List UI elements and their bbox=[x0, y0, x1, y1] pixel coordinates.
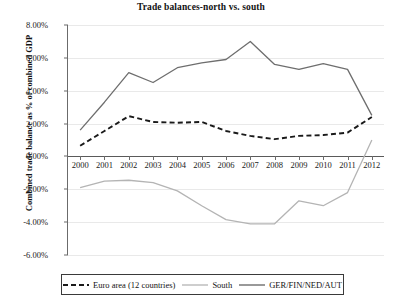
legend-item-euro-area[interactable]: Euro area (12 countries) bbox=[63, 280, 175, 290]
y-tick-label: 4.00% bbox=[2, 86, 48, 96]
chart-legend: Euro area (12 countries) South GER/FIN/N… bbox=[61, 274, 344, 295]
y-tick-label: 8.00% bbox=[2, 20, 48, 30]
y-tick-label: -6.00% bbox=[2, 250, 48, 260]
legend-swatch-north-icon bbox=[239, 281, 265, 289]
legend-swatch-south-icon bbox=[182, 281, 208, 289]
series-line bbox=[80, 140, 372, 224]
legend-label-north: GER/FIN/NED/AUT bbox=[269, 280, 342, 290]
legend-swatch-dashed-icon bbox=[63, 281, 89, 289]
legend-label-south: South bbox=[212, 280, 232, 290]
y-tick-label: -2.00% bbox=[2, 184, 48, 194]
legend-item-north[interactable]: GER/FIN/NED/AUT bbox=[239, 280, 342, 290]
plot-area: 8.00%6.00%4.00%2.00%0.00%-2.00%-4.00%-6.… bbox=[68, 25, 384, 255]
y-tick-label: -4.00% bbox=[2, 217, 48, 227]
series-line bbox=[80, 116, 372, 146]
chart-container: Trade balances-north vs. south Combined … bbox=[0, 0, 402, 302]
series-lines bbox=[68, 25, 384, 255]
series-line bbox=[80, 41, 372, 130]
chart-title: Trade balances-north vs. south bbox=[0, 2, 402, 12]
gridline bbox=[68, 255, 384, 256]
y-tick-label: 0.00% bbox=[2, 151, 48, 161]
y-tick-label: 6.00% bbox=[2, 53, 48, 63]
legend-item-south[interactable]: South bbox=[182, 280, 232, 290]
legend-label-euro-area: Euro area (12 countries) bbox=[93, 280, 175, 290]
y-tick-label: 2.00% bbox=[2, 119, 48, 129]
